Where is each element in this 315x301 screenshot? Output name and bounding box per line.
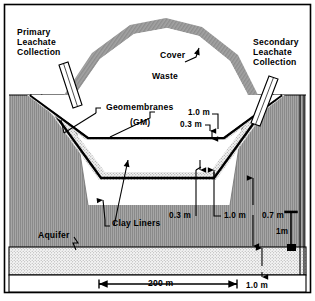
dim-lower-0-3m-label: 0.3 m xyxy=(169,211,191,221)
dim-upper-0-3m-label: 0.3 m xyxy=(180,120,202,130)
primary-leachate-line-3: Collection xyxy=(17,47,61,57)
dim-lower-1-0m-label: 1.0 m xyxy=(224,211,246,221)
aquifer-label: Aquifer xyxy=(38,230,69,240)
vertical-scale-label: 1m xyxy=(276,227,288,237)
clay-liners-label: Clay Liners xyxy=(112,218,161,228)
dim-upper-1-0m-label: 1.0 m xyxy=(188,108,210,118)
primary-leachate-collection-label: Primary Leachate Collection xyxy=(17,27,61,57)
waste-label: Waste xyxy=(152,71,178,81)
primary-leachate-line-2: Leachate xyxy=(17,37,61,47)
geomembranes-label: Geomembranes xyxy=(106,102,173,112)
scale-200m-label: 200 m xyxy=(148,278,173,288)
secondary-leachate-collection-label: Secondary Leachate Collection xyxy=(253,37,299,67)
secondary-leachate-line-3: Collection xyxy=(253,57,299,67)
cover-label: Cover xyxy=(160,50,185,60)
secondary-leachate-line-1: Secondary xyxy=(253,37,299,47)
geomembranes-abbrev-label: (GM) xyxy=(130,117,150,127)
landfill-cross-section-figure: Primary Leachate Collection Secondary Le… xyxy=(0,0,315,301)
primary-leachate-line-1: Primary xyxy=(17,27,61,37)
secondary-leachate-line-2: Leachate xyxy=(253,47,299,57)
dim-aquifer-1-0m-label: 1.0 m xyxy=(246,281,268,291)
dim-0-7m-label: 0.7 m xyxy=(262,211,284,221)
